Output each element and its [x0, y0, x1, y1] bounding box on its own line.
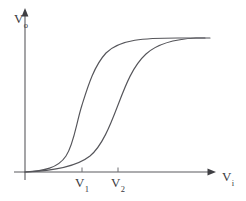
tick-label-v2-main: V [111, 175, 120, 190]
y-axis-label-subscript: o [24, 20, 28, 30]
tick-label-v2: V2 [111, 176, 125, 192]
curve-right [25, 38, 210, 172]
tick-label-v2-subscript: 2 [121, 184, 125, 194]
y-axis-label-main: V [14, 11, 23, 26]
curve-left [25, 38, 205, 172]
tick-label-v1-subscript: 1 [85, 184, 89, 194]
y-axis-label: Vo [14, 12, 28, 28]
plot-area [0, 0, 246, 201]
tick-label-v1-main: V [75, 175, 84, 190]
x-axis-label: Vi [222, 170, 234, 186]
tick-label-v1: V1 [75, 176, 89, 192]
x-axis-label-subscript: i [232, 178, 234, 188]
x-axis-label-main: V [222, 169, 231, 184]
right-arrow-icon [208, 169, 217, 176]
transfer-characteristic-figure: Vo Vi V1 V2 [0, 0, 246, 201]
